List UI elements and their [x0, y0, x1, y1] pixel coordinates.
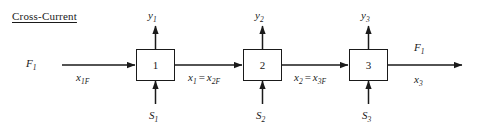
- solvent-label-2-sub: 2: [262, 115, 266, 124]
- interstage-label-1: x1=x2F: [188, 72, 220, 83]
- solvent-label-1: S1: [149, 110, 158, 121]
- inlet-composition-sub: 1F: [81, 77, 89, 86]
- interstage-label-1-right-sub: 2F: [212, 77, 220, 86]
- inlet-flow-sub: 1: [33, 63, 37, 72]
- inlet-flow-label: F1: [26, 58, 36, 69]
- interstage-label-2-right-sub: 3F: [318, 77, 326, 86]
- solvent-label-1-base: S: [149, 109, 155, 121]
- outlet-flow-sub: 1: [421, 47, 425, 56]
- overhead-label-2: y2: [255, 10, 264, 21]
- solvent-label-3: S3: [362, 110, 371, 121]
- overhead-label-3-sub: 3: [366, 15, 370, 24]
- overhead-label-1-sub: 1: [153, 15, 157, 24]
- inlet-flow-base: F: [26, 57, 33, 69]
- solvent-label-2: S2: [256, 110, 265, 121]
- solvent-label-2-base: S: [256, 109, 262, 121]
- overhead-label-1: y1: [148, 10, 157, 21]
- outlet-flow-label: F1: [414, 42, 424, 53]
- interstage-label-1-operator: =: [197, 71, 207, 83]
- stage-box-3[interactable]: 3: [349, 49, 388, 81]
- stage-box-2[interactable]: 2: [243, 49, 282, 81]
- outlet-composition-label: x3: [414, 74, 423, 85]
- stage-box-1[interactable]: 1: [136, 49, 175, 81]
- interstage-label-2: x2=x3F: [294, 72, 326, 83]
- outlet-flow-base: F: [414, 41, 421, 53]
- interstage-label-2-operator: =: [303, 71, 313, 83]
- overhead-label-2-sub: 2: [260, 15, 264, 24]
- interstage-label-2-left-sub: 2: [299, 77, 303, 86]
- arrow-layer: [0, 0, 480, 132]
- solvent-label-1-sub: 1: [155, 115, 159, 124]
- outlet-composition-sub: 3: [419, 79, 423, 88]
- solvent-label-3-sub: 3: [368, 115, 372, 124]
- cross-current-diagram: Cross-Current 1 2 3 F1 x1F y1: [0, 0, 480, 132]
- interstage-label-1-left-sub: 1: [193, 77, 197, 86]
- inlet-composition-label: x1F: [76, 72, 89, 83]
- solvent-label-3-base: S: [362, 109, 368, 121]
- overhead-label-3: y3: [361, 10, 370, 21]
